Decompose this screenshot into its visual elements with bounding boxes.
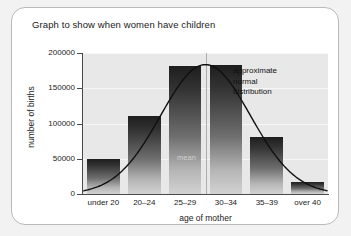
mean-line bbox=[206, 53, 207, 194]
y-axis-tick-mark bbox=[77, 88, 83, 89]
bar bbox=[291, 182, 324, 194]
bar bbox=[128, 116, 161, 194]
curve-annotation-line-2: normal bbox=[233, 77, 277, 88]
curve-annotation-line-3: distribution bbox=[233, 87, 277, 98]
plot-area: mean approximate normal distribution bbox=[83, 53, 328, 194]
y-axis-tick-label: 50000 bbox=[53, 154, 75, 163]
x-axis-line bbox=[82, 194, 329, 195]
y-axis-tick-mark bbox=[77, 194, 83, 195]
x-axis-tick-label: over 40 bbox=[278, 198, 338, 207]
curve-annotation: approximate normal distribution bbox=[233, 66, 277, 98]
bar bbox=[169, 66, 202, 194]
mean-label: mean bbox=[177, 153, 196, 162]
curve-annotation-line-1: approximate bbox=[233, 66, 277, 77]
x-axis-title: age of mother bbox=[83, 213, 328, 223]
page-background: Graph to show when women have children n… bbox=[0, 0, 351, 236]
y-axis-tick-label: 0 bbox=[71, 189, 75, 198]
y-axis-tick-labels: 050000100000150000200000 bbox=[12, 8, 75, 236]
y-axis-tick-mark bbox=[77, 159, 83, 160]
y-axis-tick-label: 100000 bbox=[48, 119, 75, 128]
y-axis-tick-label: 150000 bbox=[48, 83, 75, 92]
y-axis-tick-label: 200000 bbox=[48, 48, 75, 57]
bar bbox=[87, 159, 120, 194]
bar bbox=[250, 137, 283, 194]
y-axis-tick-mark bbox=[77, 53, 83, 54]
figure-card: Graph to show when women have children n… bbox=[11, 7, 339, 225]
y-axis-tick-mark bbox=[77, 124, 83, 125]
